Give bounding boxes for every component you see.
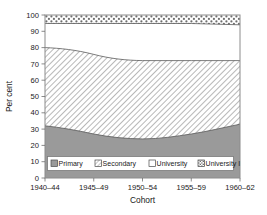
y-tick-label: 80 — [31, 43, 39, 52]
legend-item-secondary[interactable]: Secondary — [95, 160, 137, 168]
x-tick-label: 1940–44 — [30, 183, 60, 192]
legend-item-university[interactable]: University — [149, 160, 188, 168]
x-tick-label: 1950–54 — [128, 183, 158, 192]
x-axis-ticks — [45, 178, 240, 182]
x-tick-label: 1955–59 — [176, 183, 206, 192]
legend-swatch-primary-icon — [51, 160, 58, 167]
y-tick-label: 100 — [26, 11, 39, 20]
x-tick-label: 1960–62 — [225, 183, 255, 192]
y-axis-tick-labels: 0 10 20 30 40 50 60 70 80 90 100 — [26, 11, 39, 183]
y-tick-label: 20 — [31, 141, 39, 150]
y-tick-label: 90 — [31, 27, 39, 36]
legend-label-secondary: Secondary — [103, 160, 137, 168]
legend-label-university: University — [157, 160, 188, 168]
legend-swatch-university-icon — [149, 160, 156, 167]
legend-label-primary: Primary — [59, 160, 84, 168]
y-tick-label: 30 — [31, 125, 39, 134]
legend-swatch-university-i-icon — [198, 160, 205, 167]
stacked-area-chart: 0 10 20 30 40 50 60 70 80 90 100 Per cen… — [0, 0, 267, 215]
chart-container: 0 10 20 30 40 50 60 70 80 90 100 Per cen… — [0, 0, 267, 215]
y-tick-label: 60 — [31, 76, 39, 85]
legend-swatch-secondary-icon — [95, 160, 102, 167]
legend-item-primary[interactable]: Primary — [51, 160, 83, 168]
chart-legend: Primary Secondary University University … — [48, 157, 241, 171]
y-axis-ticks — [42, 15, 46, 178]
y-tick-label: 10 — [31, 157, 39, 166]
x-tick-label: 1945–49 — [79, 183, 109, 192]
legend-item-university-i[interactable]: University I — [198, 160, 240, 168]
y-tick-label: 70 — [31, 60, 39, 69]
y-tick-label: 50 — [31, 92, 39, 101]
x-axis-tick-labels: 1940–44 1945–49 1950–54 1955–59 1960–62 — [30, 183, 255, 192]
y-axis-title: Per cent — [4, 80, 14, 112]
legend-label-university-i: University I — [206, 160, 241, 168]
y-tick-label: 40 — [31, 108, 39, 117]
x-axis-title: Cohort — [130, 195, 156, 205]
y-tick-label: 0 — [35, 174, 39, 183]
